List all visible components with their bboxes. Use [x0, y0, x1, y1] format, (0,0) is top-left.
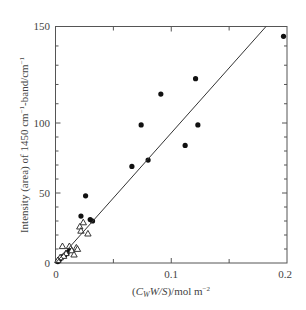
filled-circle-point	[193, 76, 198, 81]
y-tick-150: 150	[34, 20, 51, 32]
open-triangle-point	[80, 219, 86, 225]
y-tick-0: 0	[45, 257, 51, 269]
filled-circle-point	[129, 164, 134, 169]
filled-circle-point	[139, 122, 144, 127]
axis-ticks	[56, 27, 288, 264]
data-series	[55, 27, 287, 265]
filled-circle-point	[158, 92, 163, 97]
filled-circle-point	[183, 143, 188, 148]
x-tick-0.1: 0.1	[164, 268, 178, 280]
x-tick-0.2: 0.2	[278, 268, 292, 280]
filled-circle-point	[78, 214, 83, 219]
open-triangle-point	[85, 230, 91, 236]
filled-circle-point	[195, 122, 200, 127]
scatter-chart: 0 50 100 150 0 0.1 0.2 (CWW/S)/mol m−2 I…	[0, 0, 306, 310]
y-tick-50: 50	[39, 187, 51, 199]
y-tick-labels: 0 50 100 150	[34, 20, 51, 269]
x-axis-title: (CWW/S)/mol m−2	[132, 285, 211, 299]
filled-circle-point	[83, 193, 88, 198]
plot-frame	[56, 27, 288, 264]
fit-line	[56, 27, 267, 264]
filled-circle-point	[281, 34, 286, 39]
x-tick-0: 0	[53, 268, 59, 280]
x-tick-labels: 0 0.1 0.2	[53, 268, 292, 280]
open-triangle-point	[59, 243, 65, 249]
y-axis-title: Intensity (area) of 1450 cm−1-band/cm−1	[18, 56, 31, 233]
y-tick-100: 100	[34, 117, 51, 129]
